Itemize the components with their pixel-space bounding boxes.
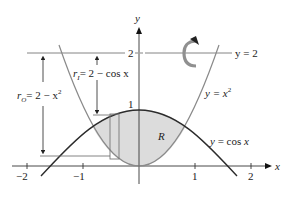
inner-radius-label: rI= 2 − cos x bbox=[73, 67, 129, 82]
region-r-label: R bbox=[157, 130, 165, 142]
y-axis-label: y bbox=[134, 12, 140, 24]
x-axis-label: x bbox=[274, 160, 280, 172]
y-tick-2: 2 bbox=[128, 47, 134, 59]
label-y-equals-x-squared: y = x2 bbox=[204, 86, 232, 99]
x-tick-1: 1 bbox=[192, 170, 198, 182]
x-axis-arrow-icon bbox=[265, 163, 272, 169]
y-axis-arrow-icon bbox=[136, 27, 142, 34]
solid-of-revolution-diagram: x y −2 −1 1 2 1 2 y = 2 y = x2 y = cos x… bbox=[0, 0, 291, 197]
label-y-equals-2: y = 2 bbox=[235, 47, 258, 59]
x-tick-neg2: −2 bbox=[16, 170, 28, 182]
y-tick-1: 1 bbox=[128, 98, 134, 110]
label-y-equals-cos-x: y = cos x bbox=[209, 135, 249, 147]
x-tick-neg1: −1 bbox=[73, 170, 85, 182]
rotation-arrow-icon bbox=[184, 36, 199, 66]
x-tick-2: 2 bbox=[248, 170, 254, 182]
outer-radius-label: rO= 2 − x2 bbox=[17, 88, 62, 104]
